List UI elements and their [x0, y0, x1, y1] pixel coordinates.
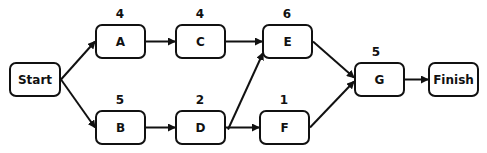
- node-label: Start: [18, 73, 52, 87]
- node-g: G: [354, 62, 405, 97]
- node-finish: Finish: [428, 62, 479, 97]
- duration-label-c: 4: [185, 7, 215, 21]
- node-d: D: [175, 110, 226, 145]
- node-label: B: [116, 121, 125, 135]
- node-b: B: [95, 110, 146, 145]
- edge-start-a: [61, 42, 95, 80]
- duration-label-f: 1: [269, 93, 299, 107]
- node-a: A: [95, 24, 146, 59]
- node-start: Start: [9, 62, 61, 97]
- network-diagram: Start 4 A 4 C 6 E 5 B 2 D 1 F 5 G Finish: [0, 0, 487, 153]
- duration-label-e: 6: [272, 7, 302, 21]
- duration-label-d: 2: [185, 93, 215, 107]
- node-label: G: [375, 73, 385, 87]
- node-label: C: [196, 35, 205, 49]
- duration-label-b: 5: [105, 93, 135, 107]
- duration-label-g: 5: [361, 45, 391, 59]
- node-label: F: [280, 121, 288, 135]
- edge-start-b: [61, 80, 95, 128]
- node-label: D: [196, 121, 206, 135]
- edges-layer: [0, 0, 487, 153]
- edge-f-g: [310, 82, 354, 128]
- node-label: A: [116, 35, 125, 49]
- node-c: C: [175, 24, 226, 59]
- node-f: F: [259, 110, 310, 145]
- node-e: E: [262, 24, 313, 59]
- duration-label-a: 4: [105, 7, 135, 21]
- node-label: Finish: [433, 73, 474, 87]
- edge-e-g: [313, 42, 354, 78]
- node-label: E: [283, 35, 291, 49]
- edge-d-e: [228, 53, 263, 130]
